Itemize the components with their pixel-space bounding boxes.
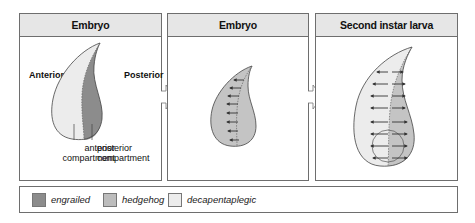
panel-second-instar-larva: Second instar larva <box>315 13 458 181</box>
hedgehog-swatch <box>103 193 117 207</box>
panel-embryo-signaling: Embryo <box>167 13 309 181</box>
decapentaplegic-swatch <box>168 193 182 207</box>
larva-signaling-diagram <box>316 14 459 182</box>
legend-label: engrailed <box>51 194 90 205</box>
legend-item-hedgehog: hedgehog <box>103 192 164 207</box>
panel-embryo-compartments: Embryo Anterior Posterior anterior compa… <box>19 13 162 181</box>
legend-label: decapentaplegic <box>187 194 256 205</box>
legend-label: hedgehog <box>122 194 164 205</box>
embryo-wing-disc-diagram <box>20 14 163 182</box>
engrailed-swatch <box>32 193 46 207</box>
embryo-signaling-diagram <box>168 14 310 182</box>
legend: engrailed hedgehog decapentaplegic <box>19 186 458 213</box>
legend-item-engrailed: engrailed <box>32 192 90 207</box>
legend-item-decapentaplegic: decapentaplegic <box>168 192 256 207</box>
